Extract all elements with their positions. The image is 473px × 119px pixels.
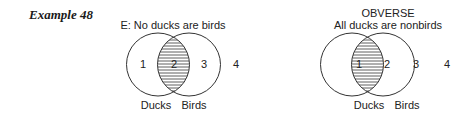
region-3: 3 — [413, 58, 419, 70]
birds-label: Birds — [394, 99, 420, 111]
ducks-label: Ducks — [354, 99, 385, 111]
region-3: 3 — [201, 58, 207, 70]
venn-diagram-obverse: OBVERSE All ducks are nonbirds 1 2 3 4 D… — [321, 7, 451, 111]
region-4: 4 — [233, 58, 239, 70]
venn-diagram-original: E: No ducks are birds 1 2 3 4 Ducks Bird… — [120, 19, 239, 111]
diagram-subtitle: All ducks are nonbirds — [334, 19, 443, 31]
region-1: 1 — [356, 58, 362, 70]
region-4: 4 — [444, 58, 450, 70]
ducks-label: Ducks — [141, 99, 172, 111]
region-2: 2 — [171, 58, 177, 70]
venn-diagrams: E: No ducks are birds 1 2 3 4 Ducks Bird… — [0, 0, 473, 119]
region-2: 2 — [384, 58, 390, 70]
birds-label: Birds — [181, 99, 207, 111]
region-1: 1 — [140, 58, 146, 70]
diagram-subtitle: E: No ducks are birds — [120, 19, 226, 31]
diagram-title: OBVERSE — [361, 7, 414, 19]
